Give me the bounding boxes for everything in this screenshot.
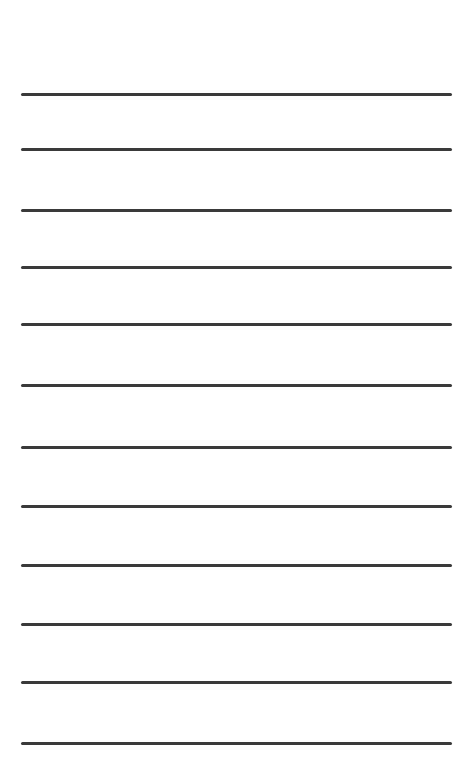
ruled-line xyxy=(21,148,452,151)
ruled-line xyxy=(21,384,452,387)
ruled-line xyxy=(21,209,452,212)
ruled-line xyxy=(21,623,452,626)
ruled-line xyxy=(21,323,452,326)
ruled-line xyxy=(21,505,452,508)
lined-page xyxy=(0,0,472,779)
ruled-line xyxy=(21,446,452,449)
ruled-line xyxy=(21,564,452,567)
ruled-line xyxy=(21,266,452,269)
ruled-line xyxy=(21,93,452,96)
ruled-line xyxy=(21,681,452,684)
ruled-line xyxy=(21,742,452,745)
